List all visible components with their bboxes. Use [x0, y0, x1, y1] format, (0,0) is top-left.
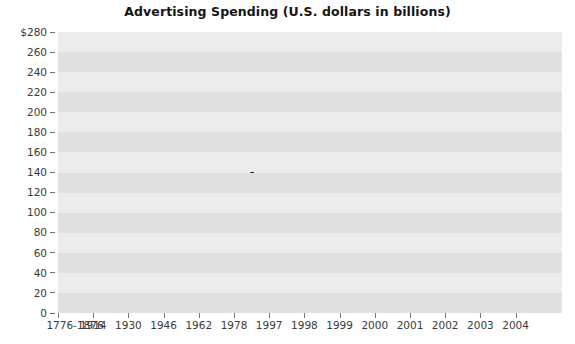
- background-band: [58, 112, 562, 132]
- background-band: [58, 92, 562, 112]
- y-axis-tick: $280: [0, 26, 58, 38]
- background-band: [58, 52, 562, 72]
- background-band: [58, 233, 562, 253]
- y-axis-tick-label: $280: [20, 27, 47, 38]
- y-axis-tick: 60: [0, 247, 58, 259]
- x-axis-tick-label: 1998: [291, 320, 318, 332]
- y-axis-tick-mark: [50, 212, 55, 213]
- y-axis-tick-mark: [50, 152, 55, 153]
- y-axis-tick-mark: [50, 172, 55, 173]
- y-axis-tick: 220: [0, 86, 58, 98]
- x-axis-tick-mark: [93, 313, 94, 318]
- y-axis-tick-mark: [50, 232, 55, 233]
- y-axis: $280260240220200180160140120100806040200: [0, 0, 58, 344]
- x-axis-tick-mark: [199, 313, 200, 318]
- y-axis-tick-mark: [50, 292, 55, 293]
- background-band: [58, 72, 562, 92]
- y-axis-tick-label: 140: [27, 167, 47, 178]
- x-axis-tick-label: 1997: [256, 320, 283, 332]
- y-axis-tick: 80: [0, 227, 58, 239]
- y-axis-tick-label: 260: [27, 47, 47, 58]
- y-axis-tick-mark: [50, 32, 55, 33]
- chart-title: Advertising Spending (U.S. dollars in bi…: [0, 4, 575, 19]
- x-axis-tick-mark: [375, 313, 376, 318]
- y-axis-tick-mark: [50, 272, 55, 273]
- y-axis-tick-label: 60: [34, 248, 47, 259]
- chart-container: Advertising Spending (U.S. dollars in bi…: [0, 0, 575, 344]
- background-band: [58, 173, 562, 193]
- x-axis-tick-mark: [128, 313, 129, 318]
- x-axis-tick-mark: [445, 313, 446, 318]
- y-axis-tick-label: 180: [27, 127, 47, 138]
- y-axis-tick-label: 220: [27, 87, 47, 98]
- x-axis-tick-label: 2003: [467, 320, 494, 332]
- background-band: [58, 213, 562, 233]
- background-band: [58, 132, 562, 152]
- x-axis-tick-mark: [304, 313, 305, 318]
- y-axis-tick: 140: [0, 167, 58, 179]
- y-axis-tick-mark: [50, 132, 55, 133]
- x-axis-tick-label: 2000: [361, 320, 388, 332]
- y-axis-tick-mark: [50, 192, 55, 193]
- y-axis-tick-label: 20: [34, 288, 47, 299]
- y-axis-tick: 40: [0, 267, 58, 279]
- x-axis-tick-label: 1914: [80, 320, 107, 332]
- background-band: [58, 193, 562, 213]
- y-axis-tick: 20: [0, 287, 58, 299]
- x-axis-tick-mark: [340, 313, 341, 318]
- background-band: [58, 253, 562, 273]
- x-axis-tick-mark: [480, 313, 481, 318]
- x-axis-tick-label: 2002: [432, 320, 459, 332]
- x-axis-tick-mark: [516, 313, 517, 318]
- y-axis-tick-label: 160: [27, 147, 47, 158]
- x-axis-tick-label: 1962: [185, 320, 212, 332]
- y-axis-tick-label: 100: [27, 207, 47, 218]
- x-axis-tick-mark: [410, 313, 411, 318]
- y-axis-tick-label: 40: [34, 268, 47, 279]
- y-axis-tick-mark: [50, 112, 55, 113]
- y-axis-tick-label: 240: [27, 67, 47, 78]
- y-axis-tick: 180: [0, 126, 58, 138]
- y-axis-tick-mark: [50, 92, 55, 93]
- x-axis-tick-mark: [269, 313, 270, 318]
- y-axis-tick: 260: [0, 46, 58, 58]
- y-axis-tick: 100: [0, 207, 58, 219]
- y-axis-tick-label: 200: [27, 107, 47, 118]
- x-axis: 1776-18761914193019461962197819971998199…: [0, 320, 575, 336]
- plot-area: [58, 32, 562, 313]
- y-axis-tick-mark: [50, 52, 55, 53]
- y-axis-tick-mark: [50, 72, 55, 73]
- x-axis-tick-mark: [234, 313, 235, 318]
- background-band: [58, 152, 562, 172]
- y-axis-tick-label: 120: [27, 187, 47, 198]
- y-axis-tick: 160: [0, 146, 58, 158]
- x-axis-tick-label: 1978: [221, 320, 248, 332]
- x-axis-tick-mark: [58, 313, 59, 318]
- y-axis-tick-mark: [50, 252, 55, 253]
- x-axis-tick-label: 2001: [397, 320, 424, 332]
- background-band: [58, 273, 562, 293]
- x-axis-tick-label: 2004: [502, 320, 529, 332]
- x-axis-tick-mark: [164, 313, 165, 318]
- background-band: [58, 293, 562, 313]
- background-band: [58, 32, 562, 52]
- x-axis-tick-label: 1930: [115, 320, 142, 332]
- x-axis-tick-label: 1999: [326, 320, 353, 332]
- y-axis-tick-label: 80: [34, 227, 47, 238]
- y-axis-tick: 120: [0, 187, 58, 199]
- y-axis-tick: 200: [0, 106, 58, 118]
- y-axis-tick: 240: [0, 66, 58, 78]
- x-axis-tick-label: 1946: [150, 320, 177, 332]
